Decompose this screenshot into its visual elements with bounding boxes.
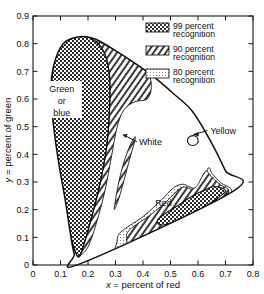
chart-legend: 99 percentrecognition90 percentrecogniti…	[146, 21, 215, 86]
x-tick-label: 0.7	[219, 269, 232, 279]
legend-sublabel-80-percent: recognition	[173, 75, 215, 85]
legend-sublabel-99-percent: recognition	[173, 29, 215, 39]
annotation-text: Green	[49, 84, 74, 94]
chromaticity-chart: 00.10.20.30.40.50.60.70.800.10.20.30.40.…	[0, 0, 264, 294]
annotation-text: Yellow	[210, 126, 236, 136]
x-tick-label: 0.6	[192, 269, 205, 279]
x-tick-label: 0.2	[82, 269, 95, 279]
annotation-red-text: Red	[155, 198, 172, 208]
x-tick-label: 0.1	[54, 269, 67, 279]
annotation-text: or	[58, 96, 66, 106]
y-tick-label: 0.7	[16, 67, 29, 77]
y-tick-label: 0.4	[16, 150, 29, 160]
y-tick-label: 0.5	[16, 122, 29, 132]
legend-swatch-99-percent	[146, 23, 169, 32]
x-tick-label: 0	[30, 269, 35, 279]
legend-sublabel-90-percent: recognition	[173, 52, 215, 62]
y-axis-label: y = percent of green	[2, 98, 13, 184]
y-tick-label: 0.8	[16, 39, 29, 49]
annotation-text: White	[139, 137, 162, 147]
annotation-text: blue	[53, 108, 70, 118]
y-tick-label: 0	[24, 260, 29, 270]
annotation-green-or-blue: Greenorblue	[42, 81, 82, 118]
x-tick-label: 0.8	[247, 269, 260, 279]
y-tick-label: 0.9	[16, 11, 29, 21]
y-tick-label: 0.1	[16, 233, 29, 243]
legend-swatch-80-percent	[146, 69, 169, 78]
x-tick-label: 0.3	[109, 269, 122, 279]
legend-swatch-90-percent	[146, 46, 169, 55]
x-tick-label: 0.4	[137, 269, 150, 279]
x-axis-label: x = percent of red	[105, 279, 180, 290]
y-tick-label: 0.2	[16, 205, 29, 215]
y-tick-label: 0.3	[16, 177, 29, 187]
y-tick-label: 0.6	[16, 94, 29, 104]
x-tick-label: 0.5	[164, 269, 177, 279]
